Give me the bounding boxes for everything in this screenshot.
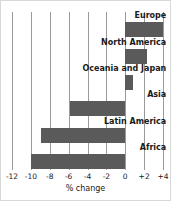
bar-category-label: Africa: [12, 143, 167, 153]
bar-category-label: Europe: [12, 11, 167, 21]
bar: [41, 128, 125, 143]
x-tick-label: -4: [84, 172, 91, 182]
x-tick-label: -10: [25, 172, 37, 182]
x-tick-label: 0: [123, 172, 128, 182]
x-axis-title: % change: [0, 184, 171, 194]
x-tick-label: +4: [157, 172, 168, 182]
bar: [70, 101, 126, 116]
x-tick-label: -2: [103, 172, 110, 182]
bar-category-label: Oceania and Japan: [12, 64, 167, 74]
x-tick-label: -6: [65, 172, 72, 182]
bar-chart-figure: EuropeNorth AmericaOceania and JapanAsia…: [0, 0, 171, 201]
plot-area: EuropeNorth AmericaOceania and JapanAsia…: [12, 12, 163, 170]
bar: [125, 75, 133, 90]
bar-category-label: Latin America: [12, 117, 167, 127]
x-tick-label: -8: [46, 172, 53, 182]
bar: [31, 154, 125, 169]
x-tick-label: +2: [139, 172, 150, 182]
x-axis-tick-labels: -12-10-8-6-4-20+2+4: [0, 172, 171, 184]
bar: [125, 22, 163, 37]
bar-category-label: North America: [12, 38, 167, 48]
x-tick-label: -12: [6, 172, 18, 182]
bar-category-label: Asia: [12, 90, 167, 100]
bar: [125, 49, 147, 64]
